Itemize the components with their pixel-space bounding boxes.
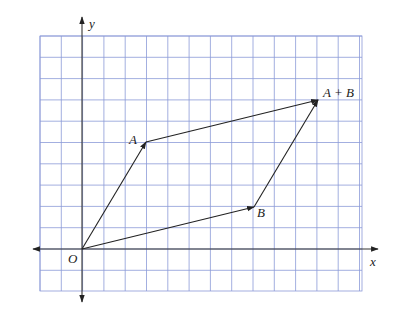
point-a-label: A — [128, 132, 137, 147]
origin-label: O — [68, 251, 78, 266]
point-sum-label: A + B — [322, 85, 354, 100]
axes — [33, 17, 378, 302]
x-axis-label: x — [369, 254, 376, 269]
vector-a — [82, 142, 146, 249]
y-axis-label: y — [87, 16, 95, 31]
vectors — [82, 100, 318, 249]
vector-diagram: y x O A B A + B — [0, 0, 395, 322]
grid — [40, 36, 362, 291]
point-b-label: B — [257, 205, 265, 220]
vector-b-to-sum — [254, 100, 318, 207]
